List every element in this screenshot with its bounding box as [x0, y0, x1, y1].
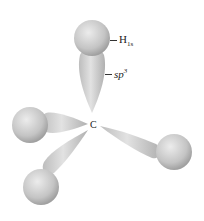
- sp3-label: sp3: [114, 68, 127, 80]
- h1s-sphere-right: [156, 134, 192, 170]
- sp3-lobe-top: [79, 48, 105, 113]
- h1s-sphere-left: [12, 107, 48, 143]
- carbon-label: C: [90, 120, 97, 130]
- h1s-sphere-lower-left: [23, 169, 59, 205]
- h1s-label-subscript: 1s: [127, 40, 133, 48]
- sp3-label-base: sp: [114, 68, 124, 80]
- h1s-label: H1s: [119, 34, 133, 48]
- sp3-label-superscript: 3: [124, 67, 128, 75]
- h1s-leader-line: [110, 40, 117, 41]
- sp3-leader-line: [105, 74, 112, 75]
- sp3-lobe-lower-left: [43, 130, 88, 175]
- orbital-diagram: [0, 0, 204, 221]
- h1s-label-base: H: [119, 33, 127, 45]
- sp3-lobe-right: [100, 126, 160, 158]
- h1s-sphere-top: [74, 20, 110, 56]
